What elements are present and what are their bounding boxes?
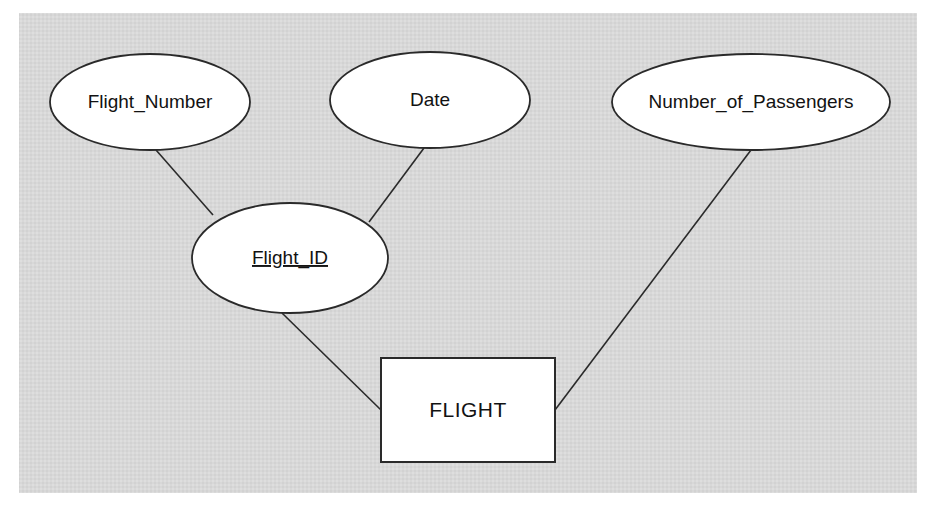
key-attribute-node-flight-id[interactable]: Flight_ID (192, 203, 388, 313)
er-diagram-canvas: Flight_Number Date Number_of_Passengers … (0, 0, 936, 508)
key-attribute-label-flight-id: Flight_ID (252, 247, 328, 269)
attribute-label-date: Date (410, 89, 450, 110)
attribute-node-flight-number[interactable]: Flight_Number (50, 54, 250, 150)
entity-node-flight[interactable]: FLIGHT (381, 358, 555, 462)
attribute-node-date[interactable]: Date (330, 52, 530, 148)
entity-label-flight: FLIGHT (429, 398, 507, 421)
attribute-node-number-of-passengers[interactable]: Number_of_Passengers (612, 54, 890, 150)
attribute-label-flight-number: Flight_Number (88, 91, 213, 113)
er-diagram-svg: Flight_Number Date Number_of_Passengers … (0, 0, 936, 508)
attribute-label-number-of-passengers: Number_of_Passengers (649, 91, 854, 113)
